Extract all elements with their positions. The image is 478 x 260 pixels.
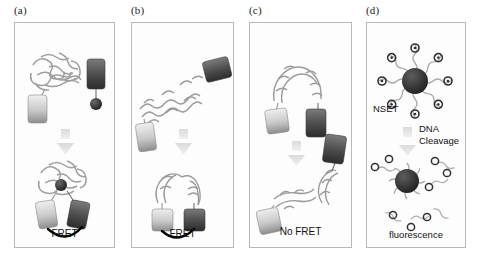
caption-a: FRET (15, 228, 114, 239)
donor-tag-top (28, 95, 47, 123)
panel-label-b: (b) (131, 4, 144, 16)
acceptor-tag-top-b (202, 56, 232, 83)
transition-arrow-a (57, 129, 74, 155)
helix-extended-top (140, 76, 203, 123)
panel-d-body: NSET DNA Cleavage (367, 23, 465, 247)
acceptor-tag-bottom-c (322, 134, 347, 165)
caption-c: No FRET (250, 226, 351, 237)
ligand-sphere-top (90, 98, 102, 110)
panel-a-body (15, 23, 114, 247)
transition-arrow-b (175, 129, 192, 155)
released-fragments (377, 161, 455, 222)
protein-intact-top (274, 66, 322, 103)
panel-b-body (132, 23, 233, 247)
helix-folded-bottom (156, 174, 200, 205)
panel-label-c: (c) (249, 4, 262, 16)
protein-fragment-left (274, 189, 316, 209)
donor-tag-top-c (264, 108, 289, 135)
dna-cleavage-label: DNA Cleavage (419, 123, 459, 147)
transition-arrow-d (399, 127, 416, 156)
donor-tag-bottom (35, 200, 58, 230)
nset-assembly-bottom (389, 163, 425, 199)
acceptor-tag-top-c (306, 109, 326, 137)
panel-label-a: (a) (14, 4, 27, 16)
protein-coil-top (31, 53, 81, 90)
gold-nanoparticle-top (402, 68, 428, 94)
protein-fragment-right (318, 170, 338, 205)
acceptor-tag-bottom (66, 200, 90, 230)
panel-c: No FRET (249, 22, 352, 248)
ligand-sphere-bound (55, 179, 67, 191)
panel-label-d: (d) (366, 4, 379, 16)
panel-a: FRET (14, 22, 115, 248)
panel-b: FRET (131, 22, 234, 248)
donor-tag-top-b (135, 122, 157, 152)
nset-label: NSET (373, 103, 398, 115)
transition-arrow-c (288, 141, 305, 166)
gold-nanoparticle-bottom (395, 169, 419, 193)
figure-container: (a) (0, 0, 478, 260)
caption-d: fluorescence (367, 229, 465, 240)
caption-b: FRET (132, 228, 233, 239)
panel-c-body (250, 23, 351, 247)
panel-d: NSET DNA Cleavage fluorescence (366, 22, 466, 248)
acceptor-tag-top (87, 59, 105, 89)
